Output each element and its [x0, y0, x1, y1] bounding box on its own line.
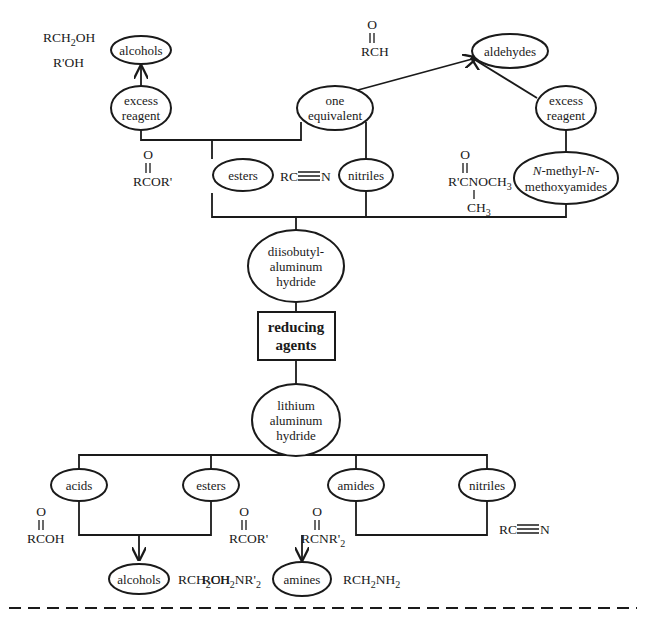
dibal-connectors	[141, 58, 566, 230]
diagram-canvas: alcohols RCH2OH R'OH excess reagent one …	[0, 0, 649, 631]
svg-text:RCNR'2: RCNR'2	[301, 531, 345, 549]
svg-text:hydride: hydride	[276, 428, 316, 443]
svg-text:RCOR': RCOR'	[133, 174, 172, 189]
lah-connectors	[79, 455, 487, 560]
svg-text:O: O	[460, 147, 470, 162]
svg-text:O: O	[36, 504, 46, 519]
svg-text:esters: esters	[196, 478, 226, 493]
node-dibal: diisobutyl- aluminum hydride	[248, 230, 344, 302]
svg-text:lithium: lithium	[277, 398, 315, 413]
node-reducing-agents: reducing agents	[258, 312, 335, 360]
svg-text:R'CNOCH3: R'CNOCH3	[448, 174, 512, 192]
carbonyl-double-bond-icon	[315, 520, 319, 530]
ester-formula-bottom: O RCOR'	[229, 504, 268, 546]
svg-text:aluminum: aluminum	[270, 413, 323, 428]
weinreb-formula: O R'CNOCH3 CH3	[448, 147, 512, 218]
esters-branch-line	[141, 122, 301, 140]
svg-text:RCH: RCH	[361, 44, 389, 59]
node-acids: acids	[51, 469, 107, 501]
node-alcohols-bottom: alcohols	[109, 564, 169, 594]
svg-text:amides: amides	[338, 478, 375, 493]
triple-bond-icon	[298, 172, 320, 180]
node-one-equivalent: one equivalent	[297, 86, 373, 130]
svg-text:excess: excess	[124, 93, 158, 108]
svg-text:reducing: reducing	[268, 319, 325, 335]
carbonyl-double-bond-icon	[146, 163, 150, 173]
svg-text:CH3: CH3	[467, 200, 491, 218]
node-esters-bottom: esters	[183, 469, 239, 501]
dibal-collector-line	[212, 193, 566, 217]
amide-formula: O RCNR'2	[301, 504, 345, 549]
svg-text:aluminum: aluminum	[270, 259, 323, 274]
svg-text:O: O	[312, 504, 322, 519]
arrow-to-aldehydes-from-one-equivalent	[358, 58, 476, 90]
node-alcohols-top: alcohols	[111, 36, 171, 64]
carbonyl-double-bond-icon	[39, 520, 43, 530]
node-amides: amides	[328, 469, 384, 501]
svg-text:O: O	[367, 17, 377, 32]
svg-text:methoxyamides: methoxyamides	[525, 179, 607, 194]
svg-text:amines: amines	[284, 572, 321, 587]
triple-bond-icon	[517, 525, 539, 533]
carbonyl-double-bond-icon	[370, 33, 374, 43]
node-aldehydes: aldehydes	[472, 34, 548, 68]
node-esters-top: esters	[213, 159, 273, 191]
rch2nh2-formula: RCH2NH2	[343, 572, 400, 590]
alcohols-top-formulas: RCH2OH R'OH	[43, 30, 96, 70]
svg-text:nitriles: nitriles	[348, 168, 384, 183]
svg-text:one: one	[326, 93, 345, 108]
aldehydes-label: aldehydes	[484, 44, 536, 59]
acid-formula: O RCOH	[27, 504, 65, 546]
node-nitriles-bottom: nitriles	[459, 469, 515, 501]
aldehyde-formula: O RCH	[361, 17, 389, 59]
rch2oh-formula-top: RCH2OH	[43, 30, 96, 48]
svg-text:equivalent: equivalent	[308, 108, 363, 123]
svg-text:N: N	[540, 522, 550, 537]
svg-text:esters: esters	[228, 168, 258, 183]
svg-text:RCOH: RCOH	[27, 531, 65, 546]
carbonyl-double-bond-icon	[463, 163, 467, 173]
node-excess-reagent-right: excess reagent	[536, 86, 596, 130]
svg-text:RCOR': RCOR'	[229, 531, 268, 546]
nitrile-formula-bottom: RC N	[499, 522, 550, 537]
svg-text:RC: RC	[499, 522, 517, 537]
svg-text:alcohols: alcohols	[117, 572, 160, 587]
reducing-agents-diagram: alcohols RCH2OH R'OH excess reagent one …	[0, 0, 649, 631]
ester-formula-top: O RCOR'	[133, 147, 172, 189]
alcohols-top-label: alcohols	[119, 43, 162, 58]
svg-text:acids: acids	[66, 478, 93, 493]
node-weinreb-amides: N-methyl-N- methoxyamides	[514, 152, 618, 204]
svg-text:reagent: reagent	[547, 108, 586, 123]
node-amines: amines	[273, 562, 331, 596]
svg-text:N: N	[321, 169, 331, 184]
svg-text:nitriles: nitriles	[469, 478, 505, 493]
svg-text:O: O	[143, 147, 153, 162]
svg-text:N-methyl-N-: N-methyl-N-	[532, 163, 599, 178]
carbonyl-double-bond-icon	[242, 520, 246, 530]
svg-text:diisobutyl-: diisobutyl-	[268, 244, 324, 259]
node-nitriles-top: nitriles	[339, 159, 393, 191]
amides-nitriles-merge-line	[356, 501, 487, 535]
svg-text:reagent: reagent	[122, 108, 161, 123]
node-excess-reagent-left: excess reagent	[111, 86, 171, 130]
node-lah: lithium aluminum hydride	[252, 384, 340, 456]
svg-text:O: O	[239, 504, 249, 519]
rch2nr2-formula: RCH2NR'2	[202, 572, 261, 590]
svg-text:hydride: hydride	[276, 274, 316, 289]
nitrile-formula-top: RC N	[280, 169, 331, 184]
svg-text:excess: excess	[549, 93, 583, 108]
acids-esters-merge-line	[79, 501, 211, 535]
lah-distribution-line	[79, 455, 487, 469]
r-prime-oh-formula: R'OH	[53, 55, 84, 70]
svg-text:RC: RC	[280, 169, 298, 184]
svg-text:agents: agents	[276, 337, 317, 353]
